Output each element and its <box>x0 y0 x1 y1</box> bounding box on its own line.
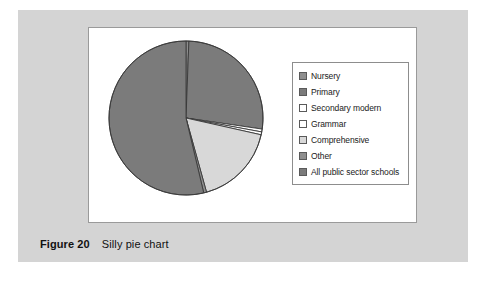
figure-caption-number: Figure 20 <box>40 238 90 250</box>
legend-swatch-nursery <box>299 72 307 80</box>
chart-plot-area: Nursery Primary Secondary modern Grammar <box>88 27 417 223</box>
legend-label-comprehensive: Comprehensive <box>311 135 369 145</box>
legend-label-nursery: Nursery <box>311 71 340 81</box>
pie-chart-svg <box>106 38 266 198</box>
legend-item-grammar[interactable]: Grammar <box>299 116 403 131</box>
figure-caption: Figure 20 Silly pie chart <box>40 238 169 250</box>
page-root: Nursery Primary Secondary modern Grammar <box>0 0 503 281</box>
figure-panel: Nursery Primary Secondary modern Grammar <box>18 10 468 262</box>
pie-chart <box>106 38 266 198</box>
legend-item-primary[interactable]: Primary <box>299 84 403 99</box>
legend-label-secondary-modern: Secondary modern <box>311 103 381 113</box>
pie-slice-primary[interactable] <box>186 41 263 129</box>
legend-label-primary: Primary <box>311 87 340 97</box>
legend-swatch-primary <box>299 88 307 96</box>
legend-label-other: Other <box>311 151 332 161</box>
legend-swatch-all-public-sector-schools <box>299 168 307 176</box>
legend-item-other[interactable]: Other <box>299 148 403 163</box>
chart-legend: Nursery Primary Secondary modern Grammar <box>292 62 409 185</box>
legend-item-nursery[interactable]: Nursery <box>299 68 403 83</box>
legend-label-grammar: Grammar <box>311 119 346 129</box>
legend-swatch-secondary-modern <box>299 104 307 112</box>
legend-item-all-public-sector-schools[interactable]: All public sector schools <box>299 164 403 179</box>
legend-swatch-comprehensive <box>299 136 307 144</box>
legend-item-comprehensive[interactable]: Comprehensive <box>299 132 403 147</box>
legend-swatch-grammar <box>299 120 307 128</box>
legend-label-all-public-sector-schools: All public sector schools <box>311 167 399 177</box>
figure-caption-text: Silly pie chart <box>102 238 169 250</box>
legend-item-secondary-modern[interactable]: Secondary modern <box>299 100 403 115</box>
legend-swatch-other <box>299 152 307 160</box>
